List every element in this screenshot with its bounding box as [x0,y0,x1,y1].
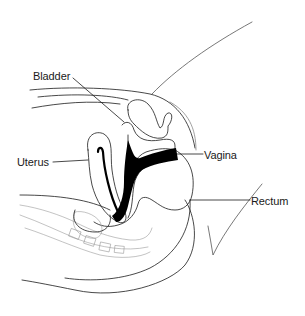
upper-contour-2 [38,95,128,100]
anatomy-diagram: Bladder Uterus Vagina Rectum [0,0,305,316]
label-bladder: Bladder [33,70,70,82]
abdominal-wall-outline [152,22,252,94]
fold-loop [74,210,111,232]
uterus-leader-line [53,160,88,162]
label-uterus: Uterus [17,156,49,168]
label-vagina: Vagina [204,149,237,161]
bladder-leader-line [73,78,124,122]
bladder-outline [128,100,172,139]
pubic-arc [170,102,196,150]
uterus-cavity [98,148,118,212]
label-rectum: Rectum [251,195,288,207]
